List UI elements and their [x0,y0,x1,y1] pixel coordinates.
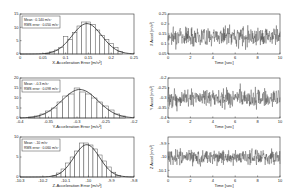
x-tick-label: -9.9 [108,178,116,183]
x-tick-label: 8 [256,119,259,124]
x-tick-label: 2 [189,55,192,60]
y-tick-label: 10 [14,134,19,139]
figure-canvas: Mean : 0.140 m/s²RMS error : 0.050 m/s²0… [0,0,295,196]
timeseries-panel-4: 0246810-0.4-0.35-0.3-0.25-0.2Time [sec]Y… [149,75,283,129]
signal-line [168,148,280,166]
y-tick-label: -10 [161,154,168,159]
x-axis-label: Y-Acceleration Error [m/s²] [53,124,102,129]
x-tick-label: 6 [234,119,237,124]
x-axis-label: Time [sec] [214,60,233,65]
y-tick-label: 5 [16,154,19,159]
y-axis-label: X Accel [m/s²] [149,22,154,46]
histogram-bar [84,143,89,177]
legend-box: Mean : 0.140 m/s²RMS error : 0.050 m/s² [22,16,60,28]
y-axis-label: Z Accel [m/s²] [149,145,154,169]
histogram-bar [86,22,91,54]
x-tick-label: 8 [256,178,259,183]
x-tick-label: 6 [234,55,237,60]
histogram-bar [80,92,86,118]
x-tick-label: 0 [19,55,22,60]
histogram-bar [61,169,66,177]
histogram-bar [77,26,82,54]
x-tick-label: 6 [234,178,237,183]
legend-box: Mean : -0.3 m/s²RMS error : 0.098 m/s² [22,80,60,92]
x-axis-label: Time [sec] [214,183,233,188]
y-tick-label: -10.1 [157,168,167,173]
y-tick-label: 0.2 [161,21,167,26]
y-tick-label: -0.2 [160,75,168,80]
x-tick-label: 0 [167,55,170,60]
histogram-bar [91,98,97,118]
y-tick-label: 15 [14,85,19,90]
x-tick-label: 0 [167,119,170,124]
y-tick-label: 10 [14,25,19,30]
y-tick-label: -0.35 [157,105,167,110]
histogram-bar [79,143,84,177]
signal-line [168,84,280,112]
x-axis-label: X-Acceleration Error [m/s²] [52,60,101,65]
x-tick-label: 0.05 [39,55,48,60]
x-tick-label: 2 [189,178,192,183]
y-tick-label: 0.25 [159,11,168,16]
legend-rms: RMS error : 0.050 m/s² [24,23,59,27]
histogram-bar [72,33,77,54]
x-tick-label: -10.2 [38,178,48,183]
y-tick-label: 5 [16,105,19,110]
histogram-panel-0: Mean : 0.140 m/s²RMS error : 0.050 m/s²0… [14,11,139,65]
histogram-bar [68,94,74,118]
y-tick-label: 20 [14,75,19,80]
histogram-bar [74,88,80,118]
y-tick-label: 0.1 [161,41,167,46]
legend-rms: RMS error : 0.060 m/s² [24,146,59,150]
timeseries-panel-3: 02468100.050.10.150.20.25Time [sec]X Acc… [149,11,283,65]
x-axis-label: Z-Acceleration Error [m/s²] [52,183,101,188]
signal-line [168,25,280,50]
x-tick-label: -0.25 [101,119,111,124]
legend-mean: Mean : 0.140 m/s² [24,18,52,22]
x-tick-label: 10 [278,178,283,183]
histogram-bar [68,39,73,54]
legend-rms: RMS error : 0.098 m/s² [24,87,59,91]
histogram-bar [82,22,87,54]
legend-box: Mean : -10 m/s²RMS error : 0.060 m/s² [22,139,60,151]
y-tick-label: 10 [14,95,19,100]
y-tick-label: 0.15 [159,31,168,36]
y-tick-label: 5 [16,38,19,43]
histogram-bar [66,163,71,177]
y-tick-label: -0.4 [160,115,168,120]
histogram-bar [88,145,93,177]
histogram-panel-2: Mean : -10 m/s²RMS error : 0.060 m/s²-10… [14,134,138,188]
x-tick-label: 10 [278,119,283,124]
legend-mean: Mean : -10 m/s² [24,141,49,145]
x-tick-label: 0.2 [108,55,114,60]
x-tick-label: 0.25 [130,55,139,60]
histogram-panel-1: Mean : -0.3 m/s²RMS error : 0.098 m/s²-0… [14,75,138,129]
y-tick-label: -0.25 [157,85,167,90]
x-tick-label: -0.2 [131,119,139,124]
legend-mean: Mean : -0.3 m/s² [24,82,50,86]
histogram-bar [95,30,100,54]
histogram-bar [102,161,107,177]
x-axis-label: Time [sec] [214,124,233,129]
x-tick-label: 0 [167,178,170,183]
x-tick-label: 2 [189,119,192,124]
timeseries-panel-5: 0246810-10.1-10-9.9Time [sec]Z Accel [m/… [149,137,283,188]
histogram-bar [91,25,96,54]
y-tick-label: 15 [14,11,19,16]
y-tick-label: -9.9 [160,141,168,146]
y-tick-label: 0.05 [159,51,168,56]
y-tick-label: -0.3 [160,95,168,100]
histogram-bar [86,94,92,118]
x-tick-label: 8 [256,55,259,60]
x-tick-label: -9.8 [131,178,139,183]
x-tick-label: 10 [278,55,283,60]
y-axis-label: Y Accel [m/s²] [149,86,154,110]
